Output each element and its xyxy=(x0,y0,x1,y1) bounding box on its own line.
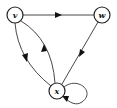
arrowhead-w-to-x xyxy=(79,49,85,57)
edge-v-to-x xyxy=(15,23,51,86)
node-label-x: x xyxy=(54,86,60,96)
node-w: w xyxy=(94,7,110,23)
node-x: x xyxy=(49,83,65,99)
node-v: v xyxy=(7,7,23,23)
arrowhead-v-to-x xyxy=(22,53,28,62)
node-label-w: w xyxy=(99,10,107,20)
arrowhead-v-to-w xyxy=(55,12,62,18)
node-label-v: v xyxy=(13,10,18,20)
edge-x-to-x-loop xyxy=(64,83,87,104)
directed-graph: v w x xyxy=(0,0,117,108)
